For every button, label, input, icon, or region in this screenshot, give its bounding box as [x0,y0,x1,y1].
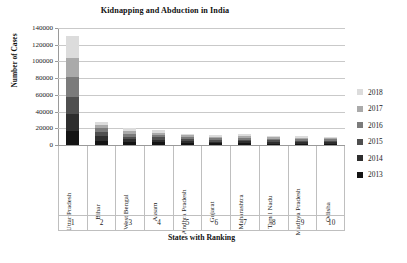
y-axis-tick-label: 60000 [36,91,54,98]
x-axis-rank-label: 6 [203,216,232,231]
bar-segment[interactable] [152,142,165,145]
bar-segment[interactable] [324,144,337,145]
x-axis-category-cell: West Bengal [116,146,145,215]
bar-column[interactable] [181,134,194,145]
y-axis-tick-label: 80000 [36,75,54,82]
x-axis-title: States with Ranking [58,233,345,242]
x-axis-category-cell: Odisha [317,146,346,215]
bar-column[interactable] [238,134,251,145]
x-axis-rank-label: 8 [260,216,289,231]
y-axis-tick-label: 140000 [32,25,53,32]
bar-segment[interactable] [238,143,251,145]
x-axis-category-cell: Madhya Pradesh [289,146,318,215]
y-axis-tick-label: 40000 [36,108,54,115]
y-axis-tick-label: 120000 [32,41,53,48]
legend-item[interactable]: 2013 [357,167,383,184]
bar-segment[interactable] [295,144,308,145]
x-axis-rank-label: 3 [116,216,145,231]
x-axis-category-cell: Maharashtra [231,146,260,215]
legend-swatch [357,172,363,178]
x-axis-rank-label: 2 [88,216,117,231]
x-axis-category-cell: Assam [145,146,174,215]
bar-column[interactable] [123,128,136,145]
bar-segment[interactable] [209,143,222,145]
bar-segment[interactable] [267,144,280,146]
bars-layer [58,28,345,145]
x-axis-rank-label: 4 [145,216,174,231]
x-axis-rank-label: 9 [289,216,318,231]
bar-segment[interactable] [66,97,79,115]
x-axis-category-cell: Uttar Pradesh [59,146,88,215]
x-axis-rank-label: 1 [59,216,88,231]
y-axis-tick-label: 20000 [36,125,54,132]
bar-segment[interactable] [66,114,79,130]
x-axis-rank-label: 10 [317,216,346,231]
legend-swatch [357,106,363,112]
legend-item[interactable]: 2017 [357,101,383,118]
bar-column[interactable] [324,137,337,145]
legend-label: 2013 [368,171,383,178]
legend-item[interactable]: 2018 [357,84,383,101]
x-axis-rank-table: 12345678910 [58,215,345,231]
chart-title: Kidnapping and Abduction in India [0,6,330,15]
legend-item[interactable]: 2014 [357,150,383,167]
bar-segment[interactable] [66,131,79,145]
y-axis-title: Number of Cases [10,25,19,97]
legend-swatch [357,139,363,145]
bar-segment[interactable] [123,142,136,145]
legend-swatch [357,155,363,161]
bar-column[interactable] [267,136,280,145]
x-axis-category-cell: Bihar [88,146,117,215]
bar-column[interactable] [209,135,222,145]
legend-label: 2016 [368,122,383,129]
y-axis-tick-label: 100000 [32,58,53,65]
bar-column[interactable] [295,136,308,145]
legend-label: 2018 [368,89,383,96]
x-axis-rank-label: 7 [231,216,260,231]
bar-segment[interactable] [181,143,194,145]
bar-segment[interactable] [66,58,79,78]
legend-label: 2015 [368,138,383,145]
bar-segment[interactable] [66,77,79,96]
x-axis-category-table: Uttar PradeshBiharWest BengalAssamAndhra… [58,146,345,215]
legend-item[interactable]: 2016 [357,117,383,134]
bar-column[interactable] [66,36,79,145]
legend-label: 2014 [368,155,383,162]
bar-column[interactable] [95,122,108,145]
x-axis-category-cell: Tamil Nadu [260,146,289,215]
plot-area: 140000120000100000800006000040000200000 [58,28,345,145]
x-axis-rank-label: 5 [174,216,203,231]
legend-item[interactable]: 2015 [357,134,383,151]
chart-container: Kidnapping and Abduction in India Number… [0,0,407,263]
x-axis-category-cell: Andhra Pradesh [174,146,203,215]
legend-label: 2017 [368,105,383,112]
bar-column[interactable] [152,130,165,145]
legend-swatch [357,122,363,128]
bar-segment[interactable] [95,141,108,145]
legend: 201820172016201520142013 [357,84,383,183]
x-axis-category-cell: Gujarat [203,146,232,215]
legend-swatch [357,89,363,95]
y-axis-tick-label: 0 [50,142,54,149]
bar-segment[interactable] [66,36,79,58]
